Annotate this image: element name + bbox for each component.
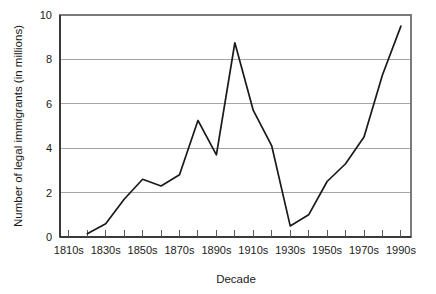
x-tick-label-1810s: 1810s — [54, 244, 84, 256]
x-tick-label-1850s: 1850s — [128, 244, 158, 256]
y-tick-label-10: 10 — [40, 9, 52, 21]
x-tick-label-1890s: 1890s — [201, 244, 231, 256]
x-tick-label-1990s: 1990s — [386, 244, 416, 256]
x-tick-label-1830s: 1830s — [91, 244, 121, 256]
x-tick-label-1910s: 1910s — [238, 244, 268, 256]
x-tick-label-1870s: 1870s — [165, 244, 195, 256]
y-tick-label-0: 0 — [46, 231, 52, 243]
y-tick-label-4: 4 — [46, 142, 52, 154]
y-tick-label-2: 2 — [46, 187, 52, 199]
x-tick-label-1970s: 1970s — [349, 244, 379, 256]
y-tick-label-8: 8 — [46, 53, 52, 65]
x-tick-label-1930s: 1930s — [275, 244, 305, 256]
x-axis-title: Decade — [216, 273, 256, 285]
immigration-line-chart: 10 8 6 4 2 0 1810s 1830s 1850s 1870s 189… — [0, 0, 436, 294]
y-tick-label-6: 6 — [46, 98, 52, 110]
x-tick-label-1950s: 1950s — [312, 244, 342, 256]
chart-canvas: 10 8 6 4 2 0 1810s 1830s 1850s 1870s 189… — [0, 0, 436, 294]
y-axis-title: Number of legal immigrants (in millions) — [12, 25, 24, 227]
